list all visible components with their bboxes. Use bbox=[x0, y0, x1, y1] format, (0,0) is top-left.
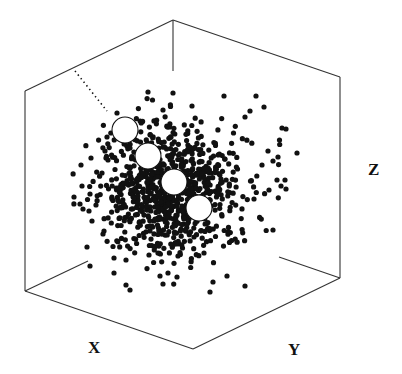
data-point bbox=[95, 193, 100, 198]
data-point bbox=[198, 228, 203, 233]
data-point bbox=[141, 190, 146, 195]
data-point bbox=[147, 125, 152, 130]
data-point bbox=[227, 182, 232, 187]
data-point bbox=[79, 183, 84, 188]
data-point bbox=[87, 184, 92, 189]
data-point bbox=[190, 151, 195, 156]
data-point bbox=[104, 183, 109, 188]
data-point bbox=[186, 190, 191, 195]
data-point bbox=[181, 210, 186, 215]
data-point bbox=[115, 223, 120, 228]
data-point bbox=[193, 116, 198, 121]
data-point bbox=[123, 282, 128, 287]
data-point bbox=[215, 127, 220, 132]
data-point bbox=[71, 171, 76, 176]
data-point bbox=[217, 188, 222, 193]
data-point bbox=[219, 212, 224, 217]
data-point bbox=[93, 202, 98, 207]
data-point bbox=[234, 184, 239, 189]
data-point bbox=[111, 270, 116, 275]
data-point bbox=[195, 129, 200, 134]
data-point bbox=[183, 132, 188, 137]
data-point bbox=[221, 244, 226, 249]
data-point bbox=[174, 241, 179, 246]
highlighted-point bbox=[112, 117, 138, 143]
data-point bbox=[210, 175, 215, 180]
data-point bbox=[181, 215, 186, 220]
data-point bbox=[213, 234, 218, 239]
data-point bbox=[148, 176, 153, 181]
data-point bbox=[200, 142, 205, 147]
data-point bbox=[117, 215, 122, 220]
scatter-3d-plot bbox=[0, 0, 402, 374]
data-point bbox=[204, 221, 209, 226]
data-point bbox=[71, 194, 76, 199]
data-point bbox=[242, 114, 247, 119]
data-point bbox=[231, 191, 236, 196]
data-point bbox=[196, 167, 201, 172]
cube-edge bbox=[25, 261, 88, 291]
data-point bbox=[106, 215, 111, 220]
data-point bbox=[276, 195, 281, 200]
data-point bbox=[194, 141, 199, 146]
data-point bbox=[122, 181, 127, 186]
data-point bbox=[249, 141, 254, 146]
highlighted-point bbox=[161, 169, 187, 195]
data-point bbox=[233, 178, 238, 183]
data-point bbox=[190, 166, 195, 171]
data-point bbox=[196, 135, 201, 140]
highlighted-point bbox=[135, 143, 161, 169]
data-point bbox=[134, 241, 139, 246]
data-point bbox=[139, 175, 144, 180]
data-point bbox=[200, 151, 205, 156]
data-point bbox=[117, 190, 122, 195]
data-point bbox=[109, 210, 114, 215]
data-point bbox=[165, 270, 170, 275]
data-point bbox=[119, 149, 124, 154]
data-point bbox=[213, 208, 218, 213]
data-point bbox=[115, 198, 120, 203]
data-point bbox=[122, 229, 127, 234]
data-point bbox=[163, 205, 168, 210]
data-point bbox=[99, 170, 104, 175]
data-point bbox=[129, 216, 134, 221]
data-point bbox=[227, 240, 232, 245]
data-point bbox=[168, 134, 173, 139]
data-point bbox=[171, 282, 176, 287]
data-point bbox=[171, 235, 176, 240]
data-point bbox=[242, 238, 247, 243]
data-point bbox=[151, 118, 156, 123]
data-point bbox=[276, 162, 281, 167]
data-point bbox=[210, 279, 215, 284]
data-point bbox=[170, 90, 175, 95]
data-point bbox=[240, 194, 245, 199]
dotted-trail bbox=[75, 71, 107, 111]
data-point bbox=[196, 147, 201, 152]
data-point bbox=[253, 93, 258, 98]
data-point bbox=[167, 211, 172, 216]
data-point bbox=[194, 252, 199, 257]
data-point bbox=[202, 176, 207, 181]
data-point bbox=[278, 183, 283, 188]
data-point bbox=[80, 206, 85, 211]
data-point bbox=[219, 116, 224, 121]
data-point bbox=[140, 119, 145, 124]
data-point bbox=[138, 223, 143, 228]
data-point bbox=[175, 213, 180, 218]
data-point bbox=[209, 189, 214, 194]
data-point bbox=[96, 138, 101, 143]
data-point bbox=[165, 125, 170, 130]
data-point bbox=[182, 152, 187, 157]
data-point bbox=[189, 123, 194, 128]
data-point bbox=[152, 198, 157, 203]
data-point bbox=[161, 246, 166, 251]
data-point bbox=[144, 266, 149, 271]
data-point bbox=[138, 129, 143, 134]
data-point bbox=[83, 143, 88, 148]
data-point bbox=[235, 240, 240, 245]
data-point bbox=[91, 179, 96, 184]
data-point bbox=[240, 227, 245, 232]
data-point bbox=[240, 136, 245, 141]
data-point bbox=[102, 148, 107, 153]
data-point bbox=[245, 197, 250, 202]
